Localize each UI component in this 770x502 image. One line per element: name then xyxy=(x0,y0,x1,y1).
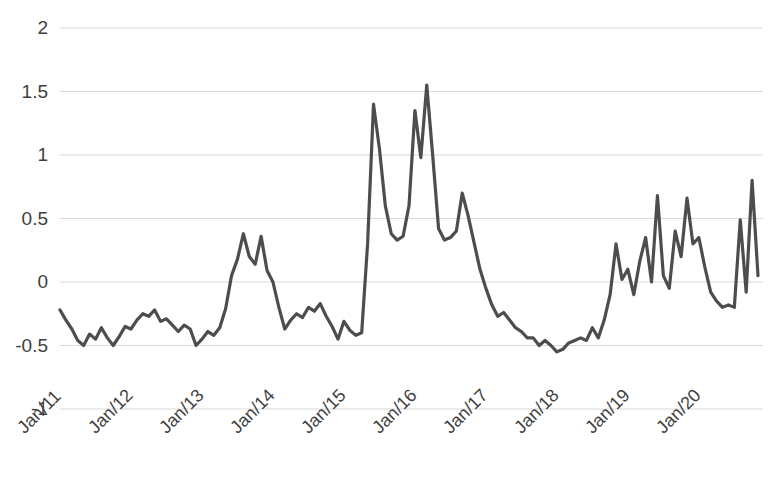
y-tick-label: 2 xyxy=(37,18,48,37)
chart-container: 21.510.50-0.5-1 Jan/11Jan/12Jan/13Jan/14… xyxy=(0,0,770,502)
y-tick-label: 0 xyxy=(37,272,48,291)
y-tick-label: 0.5 xyxy=(22,209,48,228)
y-tick-label: 1.5 xyxy=(22,82,48,101)
y-tick-label: 1 xyxy=(37,145,48,164)
y-tick-label: -0.5 xyxy=(15,336,48,355)
